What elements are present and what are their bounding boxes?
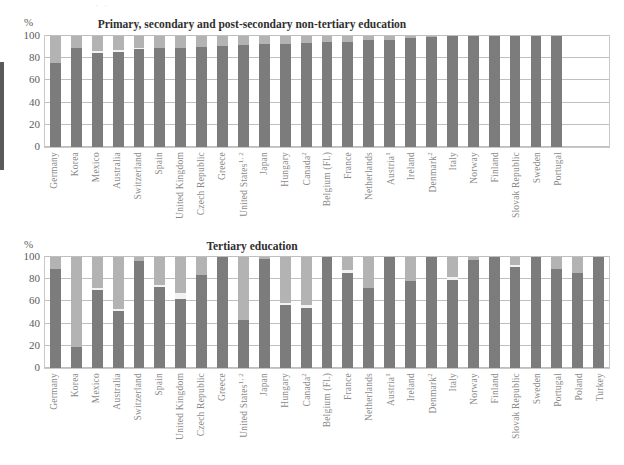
bar-segment-public xyxy=(531,36,542,147)
x-label-slot-germany: Germany xyxy=(44,150,65,230)
stacked-bar xyxy=(363,36,374,147)
stacked-bar xyxy=(238,36,249,147)
stacked-bar xyxy=(154,36,165,147)
x-label-slot-belgium-fl: Belgium (Fl.) xyxy=(317,150,338,230)
x-axis-label-portugal: Portugal xyxy=(553,373,563,407)
bar-portugal xyxy=(546,257,567,368)
bar-segment-mid xyxy=(175,293,186,300)
bar-segment-private xyxy=(113,36,124,50)
plot-frame-bottom: 020406080100 xyxy=(44,256,610,369)
x-axis-label-australia: Australia xyxy=(112,373,122,410)
x-axis-label-japan: Japan xyxy=(259,152,269,175)
x-label-slot-empty xyxy=(568,150,589,230)
bar-korea xyxy=(66,36,87,147)
bar-hungary xyxy=(275,257,296,368)
bar-japan xyxy=(254,257,275,368)
x-label-slot-ireland: Ireland xyxy=(400,150,421,230)
bar-slovak-republic xyxy=(505,257,526,368)
x-axis-label-italy: Italy xyxy=(448,373,458,391)
bar-belgium-fl xyxy=(317,257,338,368)
bar-segment-private xyxy=(92,36,103,51)
bar-united-states xyxy=(233,36,254,147)
x-axis-label-ireland: Ireland xyxy=(406,152,416,180)
bar-greece xyxy=(212,36,233,147)
x-label-slot-australia: Australia xyxy=(107,150,128,230)
x-label-slot-finland: Finland xyxy=(484,150,505,230)
y-tick-label-0: 0 xyxy=(35,140,41,152)
stacked-bar xyxy=(510,257,521,368)
bar-segment-public xyxy=(489,257,500,368)
y-tick-label-60: 60 xyxy=(29,73,40,85)
bar-segment-private xyxy=(405,257,416,281)
x-axis-label-france: France xyxy=(343,152,353,179)
chart-title-tertiary: Tertiary education xyxy=(0,240,624,252)
stacked-bar xyxy=(322,36,333,147)
x-axis-label-slovak-republic: Slovak Republic xyxy=(511,152,521,218)
bar-segment-private xyxy=(154,36,165,48)
bar-canada xyxy=(296,36,317,147)
x-label-slot-switzerland: Switzerland xyxy=(128,371,149,463)
x-axis-label-austria: Austria1 xyxy=(384,152,396,185)
stacked-bar xyxy=(510,36,521,147)
bar-segment-public xyxy=(175,299,186,368)
bar-segment-private xyxy=(342,257,353,270)
stacked-bar xyxy=(426,36,437,147)
bar-segment-private xyxy=(113,257,124,309)
bar-segment-private xyxy=(50,257,61,269)
stacked-bar xyxy=(217,257,228,368)
bar-norway xyxy=(463,257,484,368)
stacked-bar xyxy=(489,36,500,147)
x-label-slot-ireland: Ireland xyxy=(400,371,421,463)
stacked-bar xyxy=(71,257,82,368)
x-axis-label-netherlands: Netherlands xyxy=(364,152,374,200)
bar-czech-republic xyxy=(191,36,212,147)
bar-segment-private xyxy=(301,257,312,305)
x-axis-label-netherlands: Netherlands xyxy=(364,373,374,421)
x-label-slot-belgium-fl: Belgium (Fl.) xyxy=(317,371,338,463)
bar-segment-private xyxy=(238,257,249,320)
stacked-bar xyxy=(384,36,395,147)
bar-france xyxy=(337,257,358,368)
x-label-slot-slovak-republic: Slovak Republic xyxy=(505,150,526,230)
bar-segment-public xyxy=(551,269,562,368)
bar-segment-public xyxy=(92,290,103,368)
x-axis-label-poland: Poland xyxy=(574,373,584,401)
bar-segment-public xyxy=(196,47,207,147)
bar-segment-public xyxy=(405,38,416,147)
stacked-bar xyxy=(113,257,124,368)
bar-australia xyxy=(108,257,129,368)
x-label-slot-mexico: Mexico xyxy=(86,150,107,230)
x-axis-label-france: France xyxy=(343,373,353,400)
stacked-bar xyxy=(384,257,395,368)
stacked-bar xyxy=(322,257,333,368)
bar-mexico xyxy=(87,36,108,147)
x-label-slot-denmark: Denmark2 xyxy=(421,150,442,230)
x-label-slot-finland: Finland xyxy=(484,371,505,463)
bar-germany xyxy=(45,36,66,147)
bar-canada xyxy=(296,257,317,368)
x-axis-label-footnote: 2 xyxy=(426,152,434,156)
bar-segment-public xyxy=(468,260,479,368)
stacked-bar xyxy=(301,36,312,147)
x-label-slot-czech-republic: Czech Republic xyxy=(191,371,212,463)
x-label-slot-united-kingdom: United Kingdom xyxy=(170,371,191,463)
chart-title-primary: Primary, secondary and post-secondary no… xyxy=(0,18,624,30)
x-axis-label-canada: Canada2 xyxy=(300,373,312,406)
bar-austria xyxy=(379,36,400,147)
bar-segment-private xyxy=(50,36,61,63)
bar-segment-private xyxy=(196,257,207,275)
bar-segment-private xyxy=(175,36,186,48)
stacked-bar xyxy=(468,257,479,368)
bar-segment-private xyxy=(259,36,270,44)
x-label-slot-austria: Austria1 xyxy=(380,371,401,463)
x-label-slot-italy: Italy xyxy=(442,150,463,230)
stacked-bar xyxy=(551,36,562,147)
bar-czech-republic xyxy=(191,257,212,368)
x-axis-label-united-states: United States1, 2 xyxy=(237,152,249,217)
stacked-bar xyxy=(280,257,291,368)
stacked-bar xyxy=(426,257,437,368)
x-axis-label-footnote: 2 xyxy=(300,373,308,377)
bar-segment-private xyxy=(301,36,312,43)
x-label-slot-poland: Poland xyxy=(568,371,589,463)
bar-italy xyxy=(442,36,463,147)
